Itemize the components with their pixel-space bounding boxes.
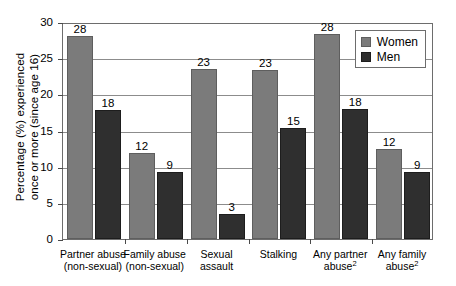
y-axis-tick-label: 20 xyxy=(31,89,53,101)
y-axis-tick xyxy=(58,204,63,205)
bar-value-label: 12 xyxy=(370,137,408,149)
bar-women xyxy=(67,36,93,239)
bar-value-label: 18 xyxy=(336,97,374,109)
bar-men xyxy=(280,128,306,239)
legend-item-women: Women xyxy=(361,34,418,49)
y-axis-tick-label: 25 xyxy=(31,53,53,65)
y-axis-tick-label: 10 xyxy=(31,162,53,174)
y-axis-tick xyxy=(58,95,63,96)
y-axis-tick xyxy=(58,168,63,169)
legend-label-men: Men xyxy=(377,51,400,63)
category-label-line-2: assault xyxy=(180,260,254,272)
bar-men xyxy=(157,172,183,239)
y-axis-title-line-1: Percentage (%) experienced xyxy=(13,53,27,201)
y-axis-tick-label: 5 xyxy=(31,198,53,210)
bar-men xyxy=(404,172,430,239)
bar-men xyxy=(95,110,121,239)
bar-value-label: 23 xyxy=(185,57,223,69)
bar-value-label: 9 xyxy=(398,160,436,172)
bar-value-label: 15 xyxy=(274,116,312,128)
category-label-line-1: Any family xyxy=(365,248,439,260)
x-axis-tick xyxy=(310,239,311,244)
y-axis-tick xyxy=(58,59,63,60)
legend: Women Men xyxy=(355,30,426,68)
category-label-line-2: abuse2 xyxy=(365,260,439,272)
y-axis-tick-label: 30 xyxy=(31,17,53,29)
y-axis-tick-label: 0 xyxy=(31,234,53,246)
legend-swatch-women-icon xyxy=(361,37,371,47)
bar-value-label: 3 xyxy=(213,202,251,214)
bar-value-label: 28 xyxy=(61,24,99,36)
x-axis-tick xyxy=(187,239,188,244)
x-axis-tick xyxy=(125,239,126,244)
x-axis-category-label: Any familyabuse2 xyxy=(365,248,439,272)
bar-chart: Percentage (%) experienced once or more … xyxy=(0,0,456,286)
legend-item-men: Men xyxy=(361,49,418,64)
bar-value-label: 23 xyxy=(246,58,284,70)
bar-men xyxy=(219,214,245,239)
legend-swatch-men-icon xyxy=(361,52,371,62)
x-axis-tick xyxy=(249,239,250,244)
y-axis-tick xyxy=(58,240,63,241)
bar-value-label: 28 xyxy=(308,22,346,34)
category-footnote-marker: 2 xyxy=(352,259,356,268)
bar-value-label: 12 xyxy=(123,141,161,153)
y-axis-tick-label: 15 xyxy=(31,126,53,138)
bar-women xyxy=(314,34,340,239)
bar-value-label: 18 xyxy=(89,98,127,110)
bar-value-label: 9 xyxy=(151,160,189,172)
gridline xyxy=(63,95,432,96)
plot-area: 281812923323152818129 Women Men xyxy=(62,23,433,240)
category-footnote-marker: 2 xyxy=(414,259,418,268)
y-axis-tick xyxy=(58,132,63,133)
legend-label-women: Women xyxy=(377,36,418,48)
x-axis-tick xyxy=(372,239,373,244)
bar-men xyxy=(342,109,368,239)
bar-women xyxy=(252,70,278,239)
